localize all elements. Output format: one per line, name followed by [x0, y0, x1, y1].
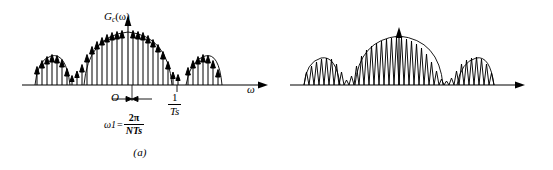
- axes-a: [22, 15, 268, 89]
- spacing-formula-a: ω1 = 2π NTs: [104, 113, 144, 136]
- panel-a-plot: [0, 0, 280, 170]
- figure-sampled-spectra: Gc(ω) O ω 1 Ts ω1 = 2π NTs (a): [0, 0, 553, 170]
- panel-a: Gc(ω) O ω 1 Ts ω1 = 2π NTs (a): [0, 0, 280, 170]
- x-axis-label-a: ω: [247, 84, 255, 95]
- panel-b-plot: [280, 0, 553, 170]
- origin-label-a: O: [111, 92, 119, 103]
- x-axis-arrow-a: [258, 82, 268, 89]
- panel-b: Gs(ω) O ω1 ω (b): [280, 0, 553, 170]
- y-axis-label-a: Gc(ω): [104, 11, 130, 24]
- x-axis-arrow-b: [515, 82, 525, 89]
- tick-label-1-over-ts: 1 Ts: [168, 92, 181, 117]
- panel-a-caption: (a): [100, 146, 180, 158]
